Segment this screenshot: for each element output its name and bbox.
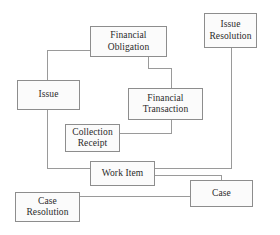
connector-financial-obligation-to-issue [47, 50, 90, 80]
entity-box-financial-obligation[interactable]: Financial Obligation [90, 26, 167, 57]
diagram-canvas: Financial Obligation Issue Resolution Is… [0, 0, 280, 235]
connector-financial-transaction-to-collection-receipt [120, 120, 171, 133]
entity-box-collection-receipt[interactable]: Collection Receipt [65, 124, 120, 152]
entity-box-work-item[interactable]: Work Item [90, 161, 155, 186]
entity-box-financial-transaction[interactable]: Financial Transaction [128, 88, 203, 120]
entity-box-case-resolution[interactable]: Case Resolution [15, 192, 80, 222]
connector-financial-obligation-to-financial-transaction [148, 57, 171, 88]
entity-box-case[interactable]: Case [190, 180, 253, 207]
entity-box-issue[interactable]: Issue [17, 80, 80, 110]
entity-box-issue-resolution[interactable]: Issue Resolution [204, 13, 257, 48]
